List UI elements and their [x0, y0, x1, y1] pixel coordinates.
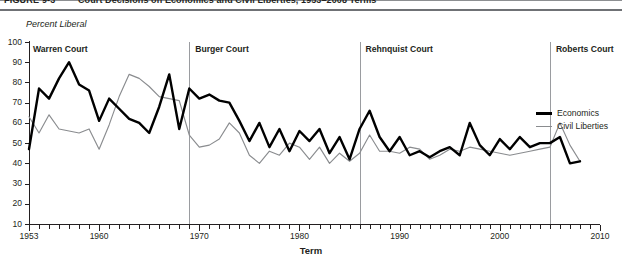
- legend-label-economics: Economics: [557, 107, 599, 120]
- legend-swatch-civil-liberties: [536, 126, 552, 127]
- series-line-civil-liberties: [29, 74, 580, 163]
- series-line-economics: [29, 62, 580, 163]
- figure-root: FIGURE 9-3 Court Decisions on Economics …: [0, 0, 622, 260]
- legend-label-civil-liberties: Civil Liberties: [557, 120, 608, 133]
- legend-swatch-economics: [536, 112, 552, 115]
- x-axis-title: Term: [0, 245, 622, 256]
- chart-plot-area: [0, 0, 622, 260]
